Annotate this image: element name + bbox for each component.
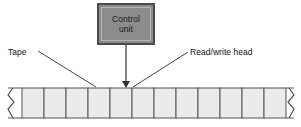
tape-cell (66, 88, 88, 118)
tape-cell (220, 88, 242, 118)
tape-cell (132, 88, 154, 118)
tape-cell (88, 88, 110, 118)
tape-cell (44, 88, 66, 118)
tape-cell (154, 88, 176, 118)
diagram-vector-layer (0, 0, 301, 127)
tape-cell (242, 88, 264, 118)
tape-right-zigzag-icon (288, 88, 294, 118)
tape-cell (22, 88, 44, 118)
tape-cells (22, 88, 286, 118)
turing-machine-diagram: Control unit Tape Read/write head (0, 0, 301, 127)
tape-left-zigzag-icon (8, 88, 14, 118)
tape-cell (176, 88, 198, 118)
tape (8, 88, 294, 118)
tape-cell (198, 88, 220, 118)
tape-cell (110, 88, 132, 118)
tape-cell (264, 88, 286, 118)
control-unit-arrow-head (122, 81, 130, 88)
read-write-head-leader-line (133, 52, 188, 87)
tape-leader-line (38, 51, 96, 87)
